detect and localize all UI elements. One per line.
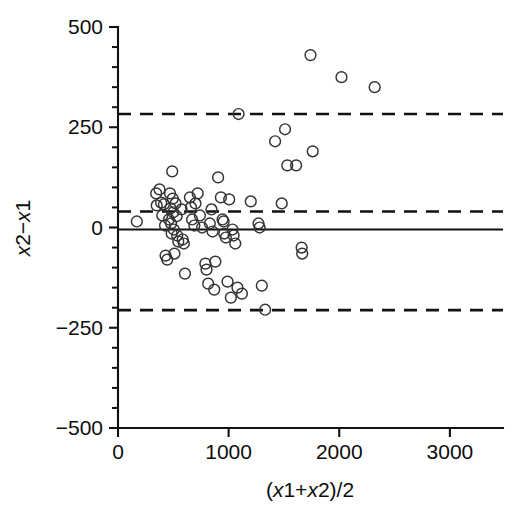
y-axis-title-group: x2−x1: [11, 200, 34, 258]
data-point: [369, 82, 380, 93]
scatter-plot-canvas: −500−2500250500 0100020003000 (x1+x2)/2 …: [0, 0, 524, 522]
data-point: [307, 146, 318, 157]
data-point: [245, 196, 256, 207]
y-tick-label: −500: [56, 416, 103, 439]
data-point: [180, 268, 191, 279]
data-point: [230, 238, 241, 249]
y-tick-label: 250: [68, 115, 103, 138]
x-tick-label: 1000: [205, 440, 252, 463]
data-point: [270, 136, 281, 147]
data-point: [276, 198, 287, 209]
data-point: [280, 124, 291, 135]
data-point: [336, 72, 347, 83]
data-point-group: [131, 50, 380, 315]
data-point: [305, 50, 316, 61]
reference-lines-group: [118, 114, 503, 310]
y-tick-label: −250: [56, 316, 103, 339]
data-point: [213, 172, 224, 183]
data-point: [222, 276, 233, 287]
x-axis-ticks: [118, 428, 450, 437]
bland-altman-figure: −500−2500250500 0100020003000 (x1+x2)/2 …: [0, 0, 524, 522]
y-axis-ticks: [109, 27, 118, 428]
data-point: [131, 216, 142, 227]
data-point: [206, 204, 217, 215]
axes-group: [118, 27, 503, 428]
axis-title-part: 2)/2: [318, 478, 354, 501]
x-axis-title: (x1+x2)/2: [266, 478, 354, 501]
data-point: [209, 284, 220, 295]
y-tick-label: 0: [91, 216, 103, 239]
axis-title-part: 1+: [283, 478, 307, 501]
x-axis-tick-labels: 0100020003000: [112, 440, 473, 463]
x-tick-label: 2000: [316, 440, 363, 463]
axis-title-part: 1: [11, 200, 34, 212]
x-tick-label: 3000: [427, 440, 474, 463]
data-point: [162, 254, 173, 265]
x-tick-label: 0: [112, 440, 124, 463]
data-point: [225, 292, 236, 303]
data-point: [256, 280, 267, 291]
axis-title-part: (: [266, 478, 273, 501]
y-tick-label: 500: [68, 15, 103, 38]
data-point: [167, 166, 178, 177]
y-axis-tick-labels: −500−2500250500: [56, 15, 103, 439]
y-axis-title: x2−x1: [11, 200, 34, 258]
data-point: [210, 256, 221, 267]
axis-title-part: 2−: [11, 222, 34, 246]
data-point: [203, 278, 214, 289]
